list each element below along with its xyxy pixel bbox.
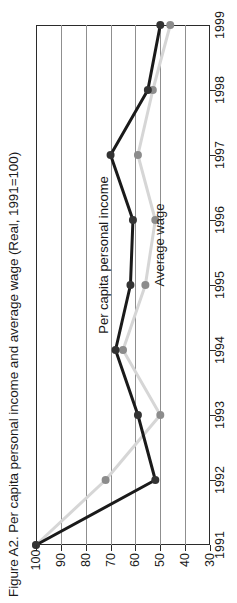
data-point — [129, 216, 137, 224]
data-point — [126, 281, 134, 289]
year-tick-label-1998: 1998 — [213, 73, 227, 107]
series-annotation-average-wage: Average wage — [152, 195, 168, 295]
value-tick-label-80: 80 — [79, 543, 93, 577]
value-tick-label-100: 100 — [29, 543, 43, 577]
series-layer — [36, 25, 210, 545]
data-point — [166, 21, 174, 29]
data-point — [112, 346, 120, 354]
data-point — [141, 281, 149, 289]
figure-container: Figure A2. Per capita personal income an… — [0, 0, 237, 603]
year-tick-label-1992: 1992 — [213, 463, 227, 497]
year-tick-label-1997: 1997 — [213, 138, 227, 172]
data-point — [156, 411, 164, 419]
data-point — [144, 86, 152, 94]
year-tick-label-1991: 1991 — [213, 528, 227, 562]
value-tick-label-60: 60 — [128, 543, 142, 577]
value-tick-label-50: 50 — [153, 543, 167, 577]
data-point — [134, 151, 142, 159]
value-tick-label-90: 90 — [54, 543, 68, 577]
data-point — [134, 411, 142, 419]
data-point — [119, 346, 127, 354]
year-tick-label-1996: 1996 — [213, 203, 227, 237]
value-tick-label-40: 40 — [178, 543, 192, 577]
data-point — [102, 476, 110, 484]
year-tick-label-1995: 1995 — [213, 268, 227, 302]
year-tick-label-1999: 1999 — [213, 8, 227, 42]
value-tick-label-70: 70 — [104, 543, 118, 577]
series-annotation-per-capita-personal-income: Per capita personal income — [96, 165, 112, 345]
chart-plot-area — [36, 25, 210, 545]
year-tick-label-1993: 1993 — [213, 398, 227, 432]
data-point — [151, 476, 159, 484]
data-point — [107, 151, 115, 159]
year-tick-label-1994: 1994 — [213, 333, 227, 367]
data-point — [156, 21, 164, 29]
figure-title: Figure A2. Per capita personal income an… — [0, 0, 26, 603]
